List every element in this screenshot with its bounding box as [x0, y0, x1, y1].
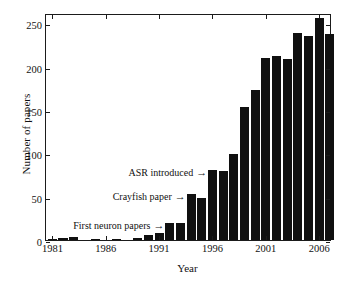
x-tick-label: 1981 — [42, 243, 63, 254]
x-tick-mark — [52, 236, 53, 240]
figure-bar-chart-papers-per-year: Number of papers 050100150200250 1981198… — [0, 0, 341, 283]
arrow-right-icon: → — [196, 166, 207, 177]
x-tick-label: 2006 — [309, 243, 330, 254]
annotation-label: ASR introduced — [128, 166, 193, 177]
bar — [208, 170, 217, 240]
x-tick-mark-top — [212, 15, 213, 19]
y-tick-mark — [46, 112, 50, 113]
y-tick-label: 250 — [26, 20, 42, 31]
x-tick-mark-top — [159, 15, 160, 19]
bar — [58, 238, 67, 240]
y-tick-mark-right — [326, 69, 330, 70]
annotation-label: First neuron papers — [73, 219, 150, 230]
bar — [144, 235, 153, 240]
bar — [187, 194, 196, 240]
x-tick-mark-top — [106, 15, 107, 19]
annotation-asr: ASR introduced→ — [46, 166, 207, 177]
bar — [283, 59, 292, 240]
y-axis-title: Number of papers — [20, 54, 32, 214]
bar — [197, 198, 206, 240]
x-tick-label: 1991 — [149, 243, 170, 254]
x-tick-mark-top — [319, 15, 320, 19]
bar — [176, 223, 185, 240]
x-tick-mark — [266, 236, 267, 240]
x-tick-mark-top — [266, 15, 267, 19]
x-tick-label: 1986 — [95, 243, 116, 254]
arrow-right-icon: → — [153, 219, 164, 230]
bar — [69, 237, 78, 240]
annotation-label: Crayfish paper — [113, 191, 172, 202]
bar — [165, 223, 174, 240]
y-tick-label: 200 — [26, 63, 42, 74]
bar — [261, 58, 270, 240]
y-tick-label: 100 — [26, 150, 42, 161]
y-tick-mark — [46, 155, 50, 156]
annotation-crayfish: Crayfish paper→ — [46, 191, 186, 202]
plot-area: 050100150200250 198119861991199620012006… — [45, 14, 331, 241]
bar — [315, 18, 324, 240]
x-tick-mark — [212, 236, 213, 240]
y-tick-mark — [46, 25, 50, 26]
plot-inner: 050100150200250 198119861991199620012006… — [46, 15, 330, 240]
arrow-right-icon: → — [175, 191, 186, 202]
x-tick-mark — [159, 236, 160, 240]
x-tick-label: 1996 — [202, 243, 223, 254]
bar — [293, 33, 302, 240]
bar — [112, 239, 121, 240]
y-tick-label: 50 — [32, 193, 43, 204]
bar — [304, 36, 313, 240]
y-tick-mark-right — [326, 112, 330, 113]
bar — [251, 90, 260, 240]
x-tick-mark-top — [52, 15, 53, 19]
x-tick-mark — [106, 236, 107, 240]
bar — [133, 238, 142, 240]
x-axis-title: Year — [44, 262, 331, 274]
bar — [219, 171, 228, 240]
bar — [229, 154, 238, 240]
y-tick-label: 150 — [26, 107, 42, 118]
y-tick-mark-right — [326, 199, 330, 200]
bar — [240, 107, 249, 240]
y-tick-mark-right — [326, 155, 330, 156]
y-tick-mark-right — [326, 25, 330, 26]
x-tick-mark — [319, 236, 320, 240]
bar — [91, 239, 100, 240]
x-tick-label: 2001 — [255, 243, 276, 254]
annotation-first-neuron: First neuron papers→ — [46, 219, 164, 230]
bar-series — [46, 15, 330, 240]
bar — [325, 34, 334, 240]
bar — [272, 56, 281, 240]
y-tick-mark — [46, 69, 50, 70]
